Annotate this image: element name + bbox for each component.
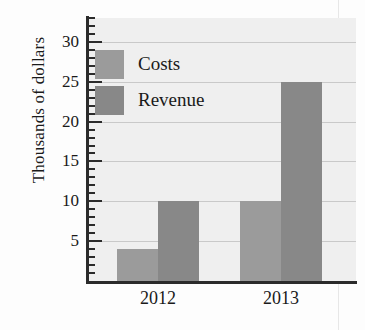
bar (158, 201, 199, 281)
y-tick-minor (86, 25, 95, 27)
legend-label: Costs (138, 53, 180, 75)
y-tick-minor (86, 248, 95, 250)
legend-swatch (95, 50, 124, 79)
y-tick-label: 20 (35, 112, 86, 132)
y-tick-major (86, 160, 102, 162)
y-tick-label: 15 (35, 151, 86, 171)
y-tick-major (86, 41, 102, 43)
y-tick-label: 10 (35, 191, 86, 211)
bar-chart-figure: Thousands of dollars 51015202530 2012201… (0, 0, 365, 330)
y-tick-minor (86, 113, 95, 115)
x-axis-spine (86, 281, 357, 284)
x-tick-label: 2012 (140, 288, 176, 309)
legend-item: Costs (95, 46, 204, 82)
y-tick-minor (86, 89, 95, 91)
y-tick-label: 5 (35, 231, 86, 251)
y-tick-minor (86, 152, 95, 154)
bar (240, 201, 281, 281)
y-tick-minor (86, 17, 95, 19)
legend-swatch (95, 86, 124, 115)
y-tick-minor (86, 57, 95, 59)
legend-label: Revenue (138, 89, 204, 111)
y-tick-minor (86, 49, 95, 51)
y-tick-minor (86, 224, 95, 226)
y-tick-minor (86, 216, 95, 218)
y-tick-minor (86, 145, 95, 147)
y-tick-minor (86, 232, 95, 234)
y-tick-minor (86, 192, 95, 194)
y-tick-minor (86, 33, 95, 35)
bar (117, 249, 158, 281)
y-tick-minor (86, 97, 95, 99)
y-tick-label: 30 (35, 32, 86, 52)
chart-legend: CostsRevenue (95, 46, 204, 118)
y-tick-minor (86, 137, 95, 139)
y-tick-minor (86, 65, 95, 67)
y-tick-major (86, 121, 102, 123)
y-tick-minor (86, 272, 95, 274)
y-tick-minor (86, 168, 95, 170)
y-tick-minor (86, 256, 95, 258)
bar (281, 82, 322, 281)
y-tick-minor (86, 208, 95, 210)
y-tick-minor (86, 129, 95, 131)
gridline (88, 42, 356, 43)
y-tick-major (86, 240, 102, 242)
y-tick-label: 25 (35, 72, 86, 92)
y-tick-minor (86, 73, 95, 75)
x-tick-label: 2013 (263, 288, 299, 309)
legend-item: Revenue (95, 82, 204, 118)
y-tick-minor (86, 105, 95, 107)
y-tick-minor (86, 184, 95, 186)
y-tick-minor (86, 264, 95, 266)
y-tick-major (86, 200, 102, 202)
y-tick-minor (86, 176, 95, 178)
